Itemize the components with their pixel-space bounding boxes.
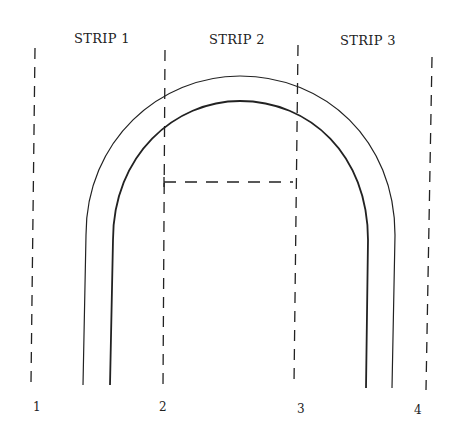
cut-line-2 (163, 50, 165, 387)
line-3-label: 3 (297, 402, 305, 416)
line-1-label: 1 (33, 400, 41, 414)
strip-2-label: STRIP 2 (209, 32, 265, 47)
line-2-label: 2 (159, 400, 167, 414)
cut-line-1 (31, 48, 35, 383)
strip-1-label: STRIP 1 (74, 31, 130, 46)
line-4-label: 4 (414, 403, 422, 417)
inner-arch (110, 101, 368, 388)
strip-3-label: STRIP 3 (340, 33, 396, 48)
cut-line-4 (426, 57, 432, 390)
cut-line-3 (294, 45, 298, 385)
outer-arch (83, 76, 395, 388)
strip-arch-diagram (0, 0, 471, 430)
